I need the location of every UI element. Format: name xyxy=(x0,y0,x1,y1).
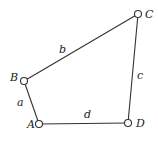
joint-d-icon xyxy=(125,120,132,127)
link-b xyxy=(24,14,138,81)
link-label-c: c xyxy=(137,69,143,82)
link-label-b: b xyxy=(59,43,66,56)
link-label-a: a xyxy=(17,96,24,109)
joint-label-c: C xyxy=(145,8,154,21)
joint-label-d: D xyxy=(135,117,145,130)
joint-a-icon xyxy=(36,121,43,128)
joint-label-b: B xyxy=(9,71,18,84)
linkage-diagram: A B C D a b c d xyxy=(0,0,158,145)
link-d xyxy=(39,123,128,124)
joint-label-a: A xyxy=(26,118,35,131)
joint-c-icon xyxy=(135,11,142,18)
link-label-d: d xyxy=(84,108,91,121)
joint-b-icon xyxy=(21,78,28,85)
